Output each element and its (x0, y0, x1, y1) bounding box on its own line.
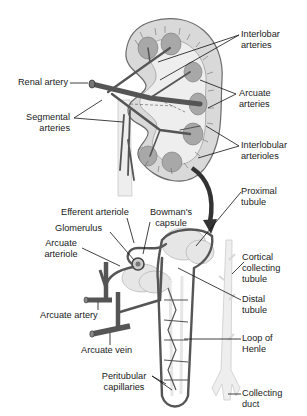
label-line: Interlobar (241, 29, 280, 40)
label-arcuate-vein: Arcuate vein (81, 345, 132, 356)
label-line: Bowman's (146, 207, 196, 218)
label-line: Henle (242, 344, 273, 355)
label-line: Collecting (242, 388, 282, 399)
label-cortical-collecting-tubule: Cortical collecting tubule (242, 252, 280, 285)
collecting-duct-shape (212, 240, 240, 400)
label-arcuate-artery: Arcuate artery (40, 310, 98, 321)
label-line: arteries (241, 40, 280, 51)
label-interlobar-arteries: Interlobar arteries (241, 29, 280, 51)
label-peritubular-capillaries: Peritubular capillaries (96, 371, 152, 393)
label-proximal-tubule: Proximal tubule (241, 186, 277, 208)
label-arcuate-arteries: Arcuate arteries (239, 88, 271, 110)
label-line: Segmental (10, 112, 70, 123)
label-line: capsule (146, 218, 196, 229)
label-line: Loop of (242, 333, 273, 344)
label-line: collecting (242, 263, 280, 274)
label-line: capillaries (96, 382, 152, 393)
label-bowmans-capsule: Bowman's capsule (146, 207, 196, 229)
label-collecting-duct: Collecting duct (242, 388, 282, 410)
label-line: arteries (10, 123, 70, 134)
label-line: arteries (239, 99, 271, 110)
label-glomerulus: Glomerulus (55, 223, 102, 234)
label-line: Efferent arteriole (61, 207, 129, 218)
label-arcuate-arteriole: Arcuate arteriole (40, 238, 82, 260)
label-line: Arcuate vein (81, 345, 132, 356)
kidney-illustration (89, 19, 222, 196)
label-line: Arcuate artery (40, 310, 98, 321)
label-line: tubule (242, 305, 267, 316)
label-line: Proximal (241, 186, 277, 197)
label-line: arteriole (40, 249, 82, 260)
label-line: duct (242, 399, 282, 410)
label-loop-of-henle: Loop of Henle (242, 333, 273, 355)
label-renal-artery: Renal artery (8, 77, 68, 88)
label-line: Peritubular (96, 371, 152, 382)
label-segmental-arteries: Segmental arteries (10, 112, 70, 134)
label-line: Arcuate (40, 238, 82, 249)
label-line: Cortical (242, 252, 280, 263)
label-line: Arcuate (239, 88, 271, 99)
arcuate-vein-shape (92, 326, 130, 334)
label-line: Interlobular (241, 140, 287, 151)
label-efferent-arteriole: Efferent arteriole (61, 207, 129, 218)
label-interlobular-arterioles: Interlobular arterioles (241, 140, 287, 162)
label-line: Glomerulus (55, 223, 102, 234)
label-line: Renal artery (8, 77, 68, 88)
label-distal-tubule: Distal tubule (242, 294, 267, 316)
label-line: Distal (242, 294, 267, 305)
label-line: tubule (242, 274, 280, 285)
label-line: arterioles (241, 151, 287, 162)
label-line: tubule (241, 197, 277, 208)
